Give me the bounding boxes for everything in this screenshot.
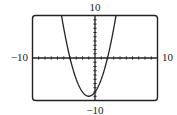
y-min-label: −10 bbox=[86, 104, 104, 115]
parabola-curve bbox=[62, 16, 116, 96]
graph-chart: 10 −10 −10 10 bbox=[0, 0, 177, 115]
x-min-label: −10 bbox=[11, 51, 29, 63]
x-max-label: 10 bbox=[162, 51, 174, 63]
y-max-label: 10 bbox=[90, 1, 102, 13]
